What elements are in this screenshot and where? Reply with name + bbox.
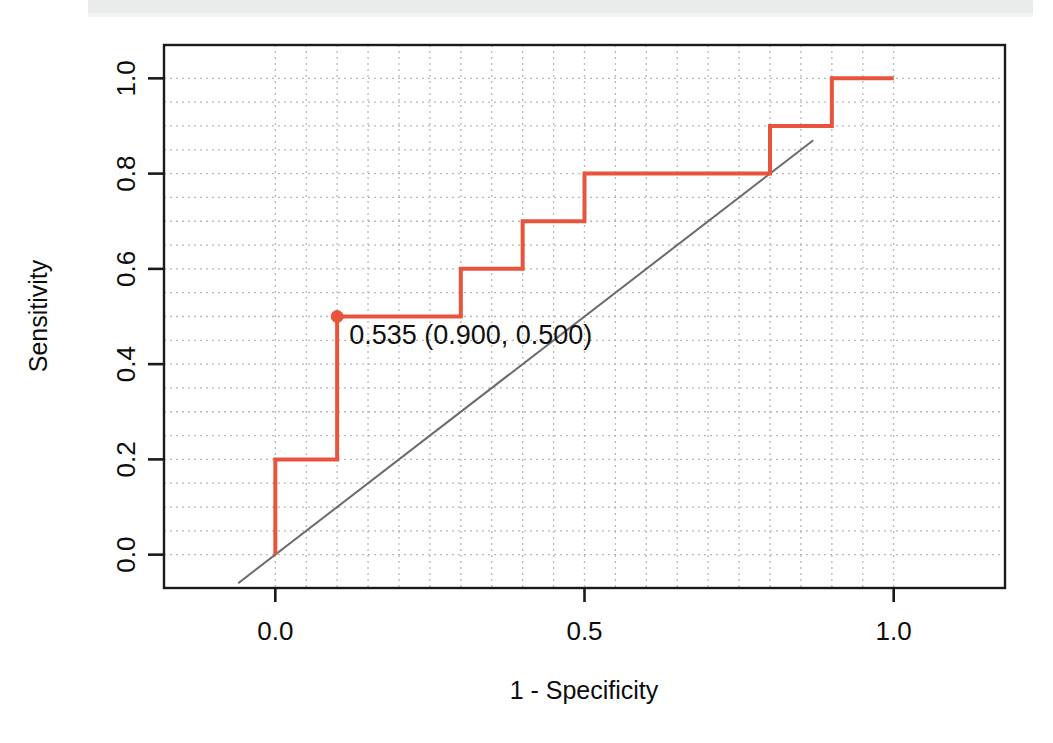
x-axis-tick-labels: 0.00.51.0 (257, 616, 912, 646)
x-tick-label: 0.0 (257, 616, 293, 646)
threshold-annotation-label: 0.535 (0.900, 0.500) (349, 320, 592, 350)
x-tick-label: 0.5 (566, 616, 602, 646)
y-axis-title: Sensitivity (24, 259, 52, 372)
x-tick-label: 1.0 (876, 616, 912, 646)
roc-curve-figure: 0.00.51.0 0.00.20.40.60.81.0 0.535 (0.90… (0, 0, 1053, 743)
optimal-threshold-marker (331, 311, 343, 323)
y-tick-label: 0.8 (111, 156, 141, 192)
y-tick-label: 0.6 (111, 251, 141, 287)
page-root: 0.00.51.0 0.00.20.40.60.81.0 0.535 (0.90… (0, 0, 1053, 743)
y-tick-label: 0.4 (111, 346, 141, 382)
y-axis-tick-labels: 0.00.20.40.60.81.0 (111, 60, 141, 572)
y-tick-label: 1.0 (111, 60, 141, 96)
y-tick-label: 0.0 (111, 537, 141, 573)
threshold-point-marker (331, 311, 343, 323)
x-axis-title: 1 - Specificity (510, 676, 659, 704)
roc-chart-svg: 0.00.51.0 0.00.20.40.60.81.0 0.535 (0.90… (0, 0, 1053, 743)
y-tick-label: 0.2 (111, 441, 141, 477)
